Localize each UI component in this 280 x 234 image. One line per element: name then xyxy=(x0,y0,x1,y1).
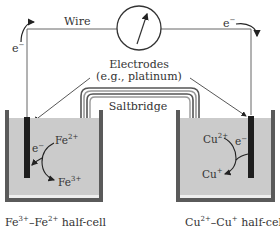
right-electrode xyxy=(248,116,254,178)
electron-right-label: e− xyxy=(223,16,236,30)
electrodes-sublabel: (e.g., platinum) xyxy=(96,70,182,83)
wire-label: Wire xyxy=(64,15,90,28)
electrochemical-cell-diagram: Wire e− e− Electrodes (e.g., platinum) S… xyxy=(0,0,280,234)
electron-left-label: e− xyxy=(12,41,25,55)
left-electrode xyxy=(24,117,30,178)
voltmeter-icon xyxy=(117,6,161,50)
electron-flow-left: e− xyxy=(12,22,34,55)
electron-flow-right: e− xyxy=(223,16,257,36)
left-half-cell-caption: Fe3+–Fe2+ half-cell xyxy=(5,215,106,229)
right-half-cell-caption: Cu2+–Cu+ half-cell xyxy=(185,215,280,229)
right-beaker xyxy=(176,110,275,202)
left-beaker xyxy=(5,110,103,202)
saltbridge-label: Saltbridge xyxy=(109,100,167,113)
